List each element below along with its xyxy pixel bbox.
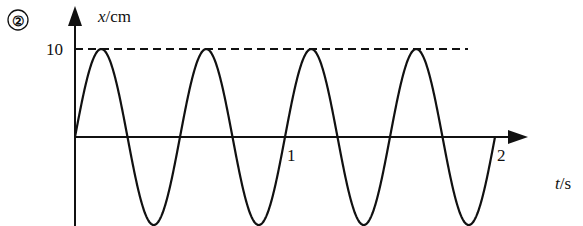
figure-number-text: ② [12,14,25,29]
figure-number-label: ② [8,10,28,30]
x-tick-label: 1 [287,146,296,165]
y-axis-unit: /cm [106,7,132,26]
x-tick-label: 2 [497,146,506,165]
y-tick-label: 10 [46,40,63,59]
x-axis-arrow-icon [508,130,528,144]
x-axis-label: t/s [555,174,571,193]
y-axis-arrow-icon [68,6,82,26]
y-axis-label: x/cm [97,7,131,26]
displacement-time-chart: ② x/cm t/s 10 12 [0,0,583,226]
x-axis-unit: /s [560,174,571,193]
